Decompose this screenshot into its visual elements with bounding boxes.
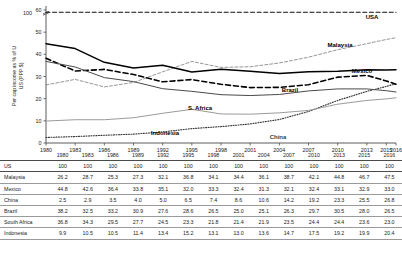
table-cell: 19.2 [327, 228, 352, 239]
table-cell: 28.0 [352, 205, 377, 216]
table-cell: 13.0 [226, 228, 251, 239]
table-col-header-year: 2007 [276, 150, 301, 161]
series-line-china [46, 84, 396, 138]
table-cell: 100 [125, 161, 150, 172]
table-col-header-year: 1992 [151, 150, 176, 161]
table-row-label: Malaysia [0, 172, 50, 183]
table-cell: 10.5 [100, 228, 125, 239]
table-cell: 100 [201, 161, 226, 172]
series-label-malaysia: Malaysia [327, 42, 353, 48]
table-row: Indonesia9.910.510.511.413.415.213.113.0… [0, 228, 402, 239]
table-cell: 27.7 [125, 217, 150, 228]
table-col-header-year: 2004 [251, 150, 276, 161]
table-cell: 100 [75, 161, 100, 172]
y-tick-label: 10 [36, 118, 42, 124]
table-head: 1980198319861989199219951998200120042007… [0, 150, 402, 161]
table-cell: 28.7 [75, 172, 100, 183]
y-tick-label: 60 [36, 7, 42, 13]
table-cell: 100 [352, 161, 377, 172]
y-tick-label: 40 [36, 51, 42, 57]
series-label-mexico: Mexico [352, 68, 373, 74]
table-cell: 100 [176, 161, 201, 172]
table-col-header-year: 2001 [226, 150, 251, 161]
table-cell: 14.7 [276, 228, 301, 239]
table-col-header-blank [0, 150, 50, 161]
table-cell: 26.8 [377, 194, 402, 205]
table-cell: 36.4 [100, 183, 125, 194]
data-table-wrap: 1980198319861989199219951998200120042007… [0, 150, 402, 268]
table-cell: 20.4 [377, 228, 402, 239]
table-cell: 2.5 [50, 194, 75, 205]
table-row-label: China [0, 194, 50, 205]
table-body: US10010010010010010010010010010010010010… [0, 161, 402, 239]
table-cell: 9.9 [50, 228, 75, 239]
table-row: Brazil38.232.533.230.927.628.626.525.025… [0, 205, 402, 216]
table-col-header-year: 1980 [50, 150, 75, 161]
table-col-header-year: 2016 [377, 150, 402, 161]
table-header-row: 1980198319861989199219951998200120042007… [0, 150, 402, 161]
table-cell: 38.2 [50, 205, 75, 216]
table-cell: 13.1 [201, 228, 226, 239]
table-cell: 29.7 [301, 205, 326, 216]
table-cell: 8.6 [226, 194, 251, 205]
table-cell: 31.3 [251, 183, 276, 194]
table-cell: 5.0 [151, 194, 176, 205]
table-cell: 32.0 [176, 183, 201, 194]
table-cell: 23.0 [377, 217, 402, 228]
table-cell: 33.3 [201, 183, 226, 194]
table-col-header-year: 1998 [201, 150, 226, 161]
table-cell: 17.5 [301, 228, 326, 239]
table-col-header-year: 1983 [75, 150, 100, 161]
table-col-header-year: 2015 [352, 150, 377, 161]
table-cell: 32.1 [151, 172, 176, 183]
y-axis-break-label: 100 [23, 10, 32, 16]
table-cell: 33.2 [100, 205, 125, 216]
table-cell: 100 [226, 161, 251, 172]
table-cell: 23.5 [276, 217, 301, 228]
series-label-usa: USA [366, 14, 379, 20]
table-col-header-year: 2010 [301, 150, 326, 161]
table-cell: 46.7 [352, 172, 377, 183]
table-cell: 26.5 [201, 205, 226, 216]
table-cell: 23.3 [327, 194, 352, 205]
table-cell: 2.9 [75, 194, 100, 205]
table-cell: 100 [151, 161, 176, 172]
y-tick-label: 30 [36, 74, 42, 80]
series-line-brazil [46, 58, 396, 87]
data-table: 1980198319861989199219951998200120042007… [0, 150, 402, 240]
table-cell: 100 [50, 161, 75, 172]
y-tick-label: 50 [36, 29, 42, 35]
table-cell: 28.6 [176, 205, 201, 216]
table-cell: 100 [251, 161, 276, 172]
y-axis-title: Per cap income as % of UUS (PPP $) [11, 46, 24, 106]
table-cell: 25.1 [251, 205, 276, 216]
table-cell: 42.6 [75, 183, 100, 194]
table-cell: 47.5 [377, 172, 402, 183]
table-col-header-year: 1995 [176, 150, 201, 161]
table-cell: 23.3 [176, 217, 201, 228]
table-cell: 24.4 [327, 217, 352, 228]
y-tick-label: 20 [36, 96, 42, 102]
table-cell: 32.4 [301, 183, 326, 194]
table-cell: 3.5 [100, 194, 125, 205]
table-cell: 30.9 [125, 205, 150, 216]
table-row: Mexico44.842.636.433.835.132.033.332.431… [0, 183, 402, 194]
table-cell: 33.8 [125, 183, 150, 194]
y-axis-title-line2: US (PPP $) [18, 62, 24, 89]
table-cell: 11.4 [125, 228, 150, 239]
table-cell: 32.9 [352, 183, 377, 194]
table-cell: 34.4 [226, 172, 251, 183]
table-row-label: Brazil [0, 205, 50, 216]
table-cell: 14.2 [276, 194, 301, 205]
chart-canvas: 0102030405060100198019831986198919921995… [0, 0, 402, 152]
table-cell: 25.0 [226, 205, 251, 216]
table-row-label: Indonesia [0, 228, 50, 239]
table-cell: 42.1 [301, 172, 326, 183]
table-cell: 32.4 [226, 183, 251, 194]
table-cell: 26.5 [377, 205, 402, 216]
table-cell: 10.5 [75, 228, 100, 239]
table-cell: 44.8 [50, 183, 75, 194]
table-cell: 33.1 [327, 183, 352, 194]
table-cell: 100 [301, 161, 326, 172]
table-row: South Africa36.834.329.527.724.523.321.8… [0, 217, 402, 228]
